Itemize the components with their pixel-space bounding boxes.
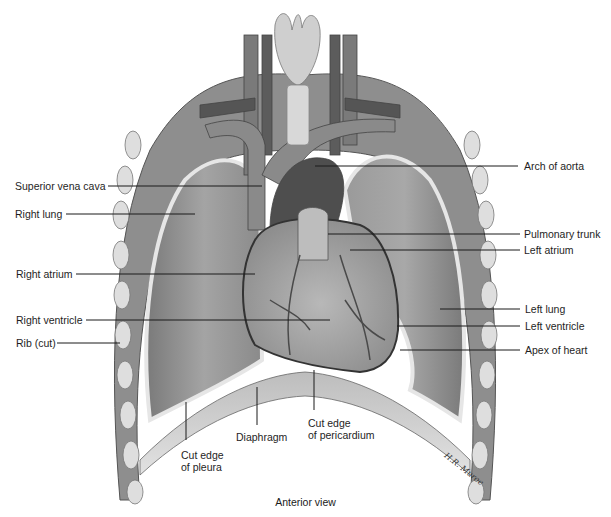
label-cut-edge-pericardium-line2: of pericardium bbox=[308, 429, 375, 441]
label-right-lung: Right lung bbox=[15, 208, 62, 220]
label-arch-of-aorta: Arch of aorta bbox=[524, 160, 584, 172]
label-apex-of-heart: Apex of heart bbox=[525, 344, 587, 356]
label-cut-edge-pleura-line1: Cut edge bbox=[181, 449, 224, 461]
label-cut-edge-pleura-line2: of pleura bbox=[181, 461, 224, 473]
label-diaphragm: Diaphragm bbox=[236, 431, 287, 443]
label-left-atrium: Left atrium bbox=[524, 244, 574, 256]
label-left-ventricle: Left ventricle bbox=[525, 320, 585, 332]
label-cut-edge-pericardium: Cut edge of pericardium bbox=[308, 417, 375, 441]
label-cut-edge-pleura: Cut edge of pleura bbox=[181, 449, 224, 473]
thorax-illustration bbox=[0, 0, 611, 517]
label-left-lung: Left lung bbox=[525, 303, 565, 315]
label-rib-cut: Rib (cut) bbox=[16, 337, 56, 349]
label-cut-edge-pericardium-line1: Cut edge bbox=[308, 417, 375, 429]
figure-caption: Anterior view bbox=[0, 496, 611, 508]
label-right-atrium: Right atrium bbox=[16, 268, 73, 280]
label-pulmonary-trunk: Pulmonary trunk bbox=[524, 228, 600, 240]
label-right-ventricle: Right ventricle bbox=[16, 314, 83, 326]
label-superior-vena-cava: Superior vena cava bbox=[15, 180, 105, 192]
